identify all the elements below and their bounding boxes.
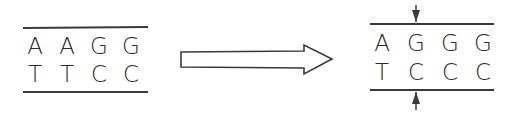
base-bottom-1: T (375, 59, 389, 85)
mutated-sequence-panel: A G G G T C C C (370, 5, 494, 110)
mutation-diagram: A A G G T T C C A G G G T C (0, 0, 509, 113)
base-top-3: G (441, 30, 459, 56)
hollow-right-arrow-icon (181, 45, 332, 74)
original-sequence-panel: A A G G T T C C (23, 27, 148, 92)
base-top-2: G (407, 30, 425, 56)
base-top-1: A (374, 30, 390, 56)
base-bottom-1: T (28, 61, 42, 87)
base-top-3: G (90, 33, 108, 59)
base-top-4: G (122, 33, 140, 59)
base-bottom-2: C (408, 59, 424, 85)
base-top-2: A (59, 33, 75, 59)
base-top-4: G (474, 30, 492, 56)
down-arrow-marker-icon (412, 5, 420, 22)
base-bottom-4: C (475, 59, 491, 85)
up-arrow-marker-icon (412, 92, 420, 110)
base-bottom-3: C (91, 61, 107, 87)
base-top-1: A (27, 33, 43, 59)
base-bottom-3: C (442, 59, 458, 85)
base-bottom-4: C (123, 61, 139, 87)
top-rule (23, 27, 148, 28)
base-bottom-2: T (60, 61, 74, 87)
